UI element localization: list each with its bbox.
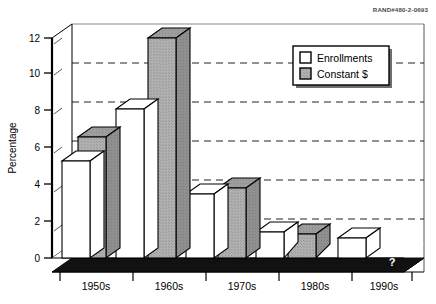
bar-1960s-enrollments [116, 99, 158, 258]
bar-group-1970s [186, 178, 260, 258]
y-tick-label-4: 4 [34, 179, 40, 190]
y-tick-label-12: 12 [29, 33, 41, 44]
x-tick-label-1990s: 1990s [370, 280, 399, 292]
legend-swatch-constant-dollars [300, 68, 311, 79]
y-tick-label-6: 6 [34, 142, 40, 153]
legend-label-constant-dollars: Constant $ [317, 68, 368, 80]
y-tick-label-2: 2 [34, 216, 40, 227]
bar-1970s-enrollments [186, 184, 228, 258]
y-tick-label-10: 10 [29, 68, 41, 79]
x-axis: 1950s 1960s 1970s 1980s 1990s [52, 272, 424, 292]
y-tick-label-8: 8 [34, 105, 40, 116]
missing-data-marker: ? [389, 256, 396, 268]
y-axis-title: Percentage [7, 122, 18, 174]
bar-chart-svg: 0 2 4 6 8 10 12 Percentage ? [0, 0, 436, 304]
chart-figure: RAND#480-2-0693 [0, 0, 436, 304]
bar-group-1980s [256, 222, 330, 258]
y-tick-label-0: 0 [34, 253, 40, 264]
x-tick-label-1980s: 1980s [301, 280, 330, 292]
x-tick-label-1950s: 1950s [82, 280, 111, 292]
x-tick-label-1960s: 1960s [155, 280, 184, 292]
legend-swatch-enrollments [300, 52, 311, 63]
y-axis-ticks: 0 2 4 6 8 10 12 [29, 33, 52, 264]
x-tick-label-1970s: 1970s [228, 280, 257, 292]
chart-legend: Enrollments Constant $ [293, 46, 392, 88]
bar-1950s-enrollments [62, 151, 104, 258]
legend-label-enrollments: Enrollments [317, 52, 372, 64]
